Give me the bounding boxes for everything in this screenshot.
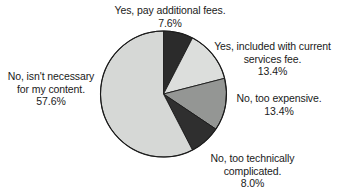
pie-label-pay-additional-fees: Yes, pay additional fees. 7.6%: [85, 4, 255, 29]
pie-label-too-expensive: No, too expensive. 13.4%: [218, 92, 340, 117]
pie-label-too-technically-complicated: No, too technically complicated. 8.0%: [180, 152, 325, 190]
pie-label-value: 8.0%: [180, 177, 325, 190]
pie-chart-figure: Yes, pay additional fees. 7.6% Yes, incl…: [0, 0, 340, 193]
pie-label-value: 13.4%: [205, 65, 340, 78]
pie-label-line: complicated.: [180, 165, 325, 178]
pie-label-line: Yes, included with current: [205, 40, 340, 53]
pie-label-line: Yes, pay additional fees.: [85, 4, 255, 17]
pie-label-line: No, isn't necessary: [2, 70, 100, 83]
pie-label-line: for my content.: [2, 83, 100, 96]
pie-label-line: No, too expensive.: [218, 92, 340, 105]
pie-label-line: No, too technically: [180, 152, 325, 165]
pie-label-not-necessary-for-my-content: No, isn't necessary for my content. 57.6…: [2, 70, 100, 108]
pie-label-value: 57.6%: [2, 95, 100, 108]
pie-label-value: 13.4%: [218, 105, 340, 118]
pie-label-line: services fee.: [205, 53, 340, 66]
pie-label-value: 7.6%: [85, 17, 255, 30]
pie-label-included-with-current-services-fee: Yes, included with current services fee.…: [205, 40, 340, 78]
